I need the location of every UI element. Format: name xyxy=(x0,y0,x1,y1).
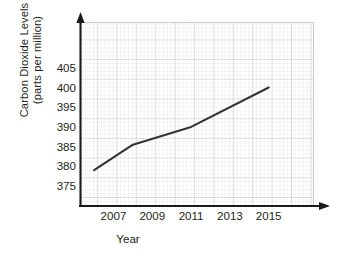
arrow-right-icon xyxy=(319,202,330,210)
grid xyxy=(81,23,314,207)
co2-line-chart: Carbon Dioxide Levels (parts per million… xyxy=(0,0,340,259)
plot-area xyxy=(0,0,340,259)
arrow-up-icon xyxy=(76,12,84,23)
